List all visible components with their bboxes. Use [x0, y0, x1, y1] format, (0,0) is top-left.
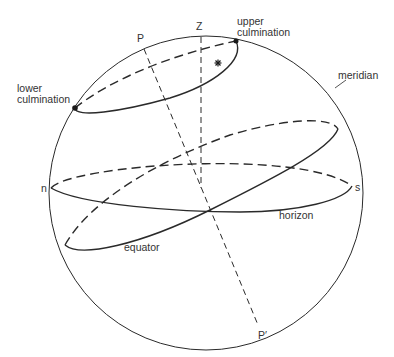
label-lower-culmination: lower culmination [17, 83, 70, 105]
diurnal-circle-front [75, 41, 238, 113]
star-icon [215, 60, 222, 67]
label-upper-culmination: upper culmination [237, 16, 290, 38]
label-zenith: Z [196, 21, 202, 32]
label-upper-culmination-line2: culmination [237, 27, 290, 38]
label-lower-culmination-line2: culmination [17, 94, 70, 105]
diurnal-circle-back [75, 41, 236, 108]
label-pole-south: P′ [258, 330, 267, 341]
label-north-point: n [41, 183, 47, 194]
label-horizon: horizon [279, 210, 313, 221]
lower-culmination-dot [72, 105, 78, 111]
label-meridian: meridian [338, 70, 378, 81]
label-equator: equator [124, 242, 160, 253]
label-south-point: s [355, 182, 360, 193]
label-pole: P [137, 33, 144, 44]
meridian-leader [335, 80, 346, 88]
upper-culmination-dot [234, 39, 239, 44]
celestial-sphere-diagram [0, 0, 394, 357]
